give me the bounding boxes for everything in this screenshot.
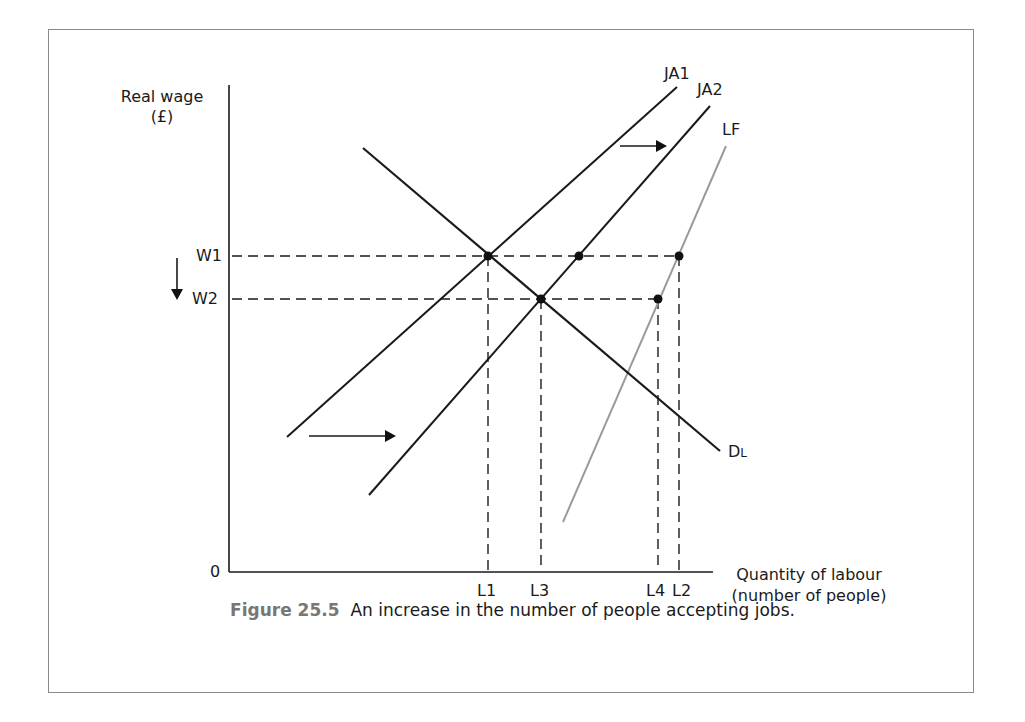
- shift-arrow-upper-icon: [620, 140, 667, 152]
- point-w2-l3: [537, 295, 546, 304]
- curve-lf: [563, 146, 726, 522]
- tick-l4: L4: [646, 583, 665, 599]
- tick-w2: W2: [192, 291, 218, 307]
- point-lf-w2: [654, 295, 663, 304]
- dashed-guides: [232, 256, 679, 570]
- tick-l2: L2: [672, 583, 691, 599]
- label-dl: DL: [728, 444, 747, 460]
- label-ja2: JA2: [697, 82, 723, 98]
- label-lf: LF: [722, 122, 740, 138]
- tick-l1: L1: [477, 583, 496, 599]
- label-dl-main: D: [728, 442, 740, 461]
- tick-w1: W1: [196, 248, 222, 264]
- y-axis-label-line2: (£): [112, 107, 212, 127]
- label-dl-sub: L: [740, 446, 747, 460]
- point-lf-w1: [675, 252, 684, 261]
- figure-caption: Figure 25.5 An increase in the number of…: [0, 600, 1025, 620]
- y-axis-label: Real wage (£): [112, 87, 212, 127]
- shift-arrow-lower-icon: [309, 430, 396, 442]
- figure-number: Figure 25.5: [230, 600, 340, 620]
- y-axis-label-line1: Real wage: [112, 87, 212, 107]
- data-points: [484, 252, 684, 304]
- caption-text: An increase in the number of people acce…: [350, 600, 795, 620]
- x-axis-label-line1: Quantity of labour: [724, 565, 894, 586]
- curve-ja1: [287, 87, 677, 437]
- point-w1-l1: [484, 252, 493, 261]
- wage-fall-arrow-icon: [171, 258, 183, 300]
- origin-label: 0: [210, 564, 220, 580]
- tick-l3: L3: [530, 583, 549, 599]
- label-ja1: JA1: [664, 66, 690, 82]
- point-ja2-w1: [575, 252, 584, 261]
